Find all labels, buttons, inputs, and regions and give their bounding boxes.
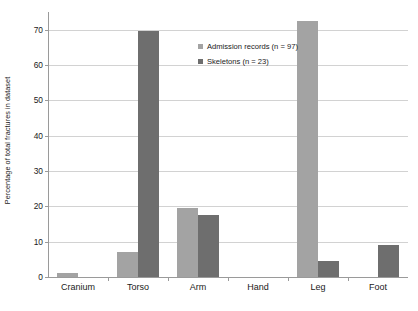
legend-label-skeletons: Skeletons (n = 23) bbox=[207, 57, 269, 66]
bar[interactable] bbox=[198, 215, 219, 277]
y-axis-tick-label: 30 bbox=[34, 166, 43, 176]
x-axis-label-leg: Leg bbox=[310, 282, 325, 292]
legend-label-admission-records: Admission records (n = 97) bbox=[207, 42, 298, 51]
legend-entry-admission-records: Admission records (n = 97) bbox=[198, 42, 298, 51]
y-axis-tick-label: 10 bbox=[34, 237, 43, 247]
x-axis-label-hand: Hand bbox=[247, 282, 269, 292]
y-axis-tick-label: 0 bbox=[38, 272, 43, 282]
y-axis-tick-label: 20 bbox=[34, 201, 43, 211]
bar[interactable] bbox=[297, 21, 318, 277]
x-axis-tick-mark bbox=[288, 277, 289, 281]
bar-group bbox=[357, 12, 399, 277]
y-axis-title-text: Percentage of total fractures in dataset bbox=[4, 76, 13, 203]
x-axis-tick-mark bbox=[168, 277, 169, 281]
legend-entry-skeletons: Skeletons (n = 23) bbox=[198, 57, 298, 66]
bar-group bbox=[57, 12, 99, 277]
bar-group bbox=[297, 12, 339, 277]
bar[interactable] bbox=[138, 31, 159, 277]
bar-chart: Percentage of total fractures in dataset… bbox=[0, 0, 418, 311]
x-axis-tick-mark bbox=[108, 277, 109, 281]
x-axis-label-arm: Arm bbox=[190, 282, 207, 292]
y-axis-tick-label: 40 bbox=[34, 131, 43, 141]
bar[interactable] bbox=[117, 252, 138, 277]
x-axis-label-torso: Torso bbox=[127, 282, 149, 292]
y-axis-tick-label: 70 bbox=[34, 25, 43, 35]
bar[interactable] bbox=[177, 208, 198, 277]
plot-area: 010203040506070 Admission records (n = 9… bbox=[48, 12, 408, 277]
x-axis-label-foot: Foot bbox=[369, 282, 387, 292]
legend-swatch-skeletons bbox=[198, 59, 203, 64]
chart-legend: Admission records (n = 97) Skeletons (n … bbox=[198, 42, 298, 72]
x-axis-tick-mark bbox=[228, 277, 229, 281]
x-axis-tick-mark bbox=[348, 277, 349, 281]
bar[interactable] bbox=[318, 261, 339, 277]
bar[interactable] bbox=[378, 245, 399, 277]
bar[interactable] bbox=[57, 273, 78, 277]
bar-group bbox=[117, 12, 159, 277]
legend-swatch-admission-records bbox=[198, 44, 203, 49]
y-axis-title: Percentage of total fractures in dataset bbox=[0, 0, 16, 280]
y-axis-tick-label: 50 bbox=[34, 95, 43, 105]
x-axis-labels: CraniumTorsoArmHandLegFoot bbox=[48, 281, 408, 297]
x-axis-label-cranium: Cranium bbox=[61, 282, 95, 292]
y-axis-tick-label: 60 bbox=[34, 60, 43, 70]
